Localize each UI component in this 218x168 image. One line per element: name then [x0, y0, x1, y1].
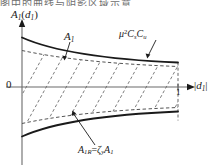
leader-lines-group — [65, 40, 156, 145]
x-axis-label: |d1| — [194, 80, 208, 93]
lower-envelope-solid-curve — [22, 112, 178, 137]
y-axis-label-main: A — [11, 8, 18, 20]
y-axis-label-paren-close: ) — [34, 8, 38, 20]
origin-label: 0 — [6, 79, 12, 90]
leader-line-mu — [148, 40, 156, 56]
upper-curve-label-sub: 1 — [71, 36, 75, 44]
x-axis-label-bar-close: | — [205, 79, 207, 91]
upper-envelope-solid-curve — [22, 38, 178, 63]
lower-inner-bound-dashed-curve — [22, 108, 178, 124]
leader-line-a1r — [73, 113, 95, 145]
y-axis-label: A1(d1) — [11, 9, 38, 22]
lower-curve-label: A1R=ζyA1 — [78, 145, 113, 156]
x-axis-tick-label-1: 1 — [176, 88, 181, 97]
leader-arrowhead-a1 — [62, 56, 67, 61]
figure-canvas — [0, 0, 218, 168]
upper-right-label-c2-sub: u — [143, 33, 146, 40]
upper-right-label-c1: C — [127, 28, 134, 39]
upper-curve-label: A1 — [64, 31, 74, 44]
upper-right-label: μ2CsCu — [119, 29, 147, 40]
leader-arrowhead-mu — [146, 53, 151, 58]
figure-container: 图中的曲线与阴影区域示意 — [0, 0, 218, 168]
upper-inner-bound-dashed-curve — [22, 51, 178, 67]
lower-curve-label-tail-sub: 1 — [110, 148, 113, 155]
upper-curve-label-main: A — [64, 30, 71, 42]
